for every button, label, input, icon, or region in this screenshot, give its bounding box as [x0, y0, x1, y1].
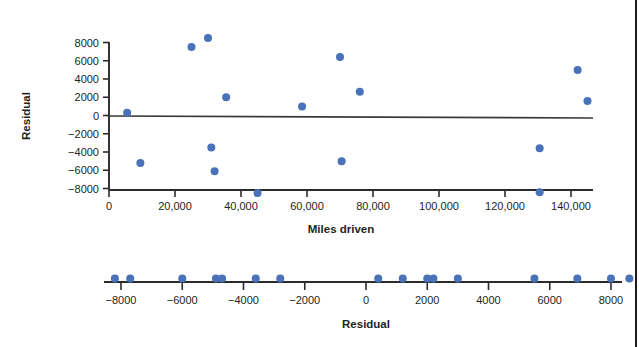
dotplot-point	[607, 275, 615, 283]
y-axis-tick-label: 2000	[75, 91, 99, 103]
dotplot-axis-tick-label: −4000	[228, 294, 259, 306]
y-axis-tick-label: 0	[93, 110, 99, 122]
x-axis-tick-label: 80,000	[356, 200, 390, 212]
chart-canvas: 80006000400020000−2000−4000−6000−8000020…	[0, 0, 639, 347]
dotplot-axis-tick-label: 8000	[599, 294, 623, 306]
dotplot-point	[573, 275, 581, 283]
x-axis-tick-label: 0	[106, 200, 112, 212]
dotplot-axis-tick-label: −6000	[167, 294, 198, 306]
dotplot-axis-tick-label: −8000	[106, 294, 137, 306]
page-border-right	[635, 0, 637, 347]
data-point	[338, 157, 346, 165]
y-axis-tick-label: −6000	[68, 164, 99, 176]
dotplot-point	[218, 275, 226, 283]
x-axis-tick-label: 40,000	[224, 200, 258, 212]
x-axis-tick-label: 100,000	[419, 200, 459, 212]
dotplot-point	[276, 275, 284, 283]
y-axis-tick-label: −2000	[68, 128, 99, 140]
zero-reference-line	[109, 116, 593, 118]
data-point	[336, 53, 344, 61]
x-axis-tick-label: 20,000	[158, 200, 192, 212]
data-point	[136, 159, 144, 167]
data-point	[536, 144, 544, 152]
dotplot-point	[399, 275, 407, 283]
dotplot-axis-tick-label: 0	[363, 294, 369, 306]
dotplot-point	[429, 275, 437, 283]
dotplot-point	[454, 275, 462, 283]
data-point	[123, 109, 131, 117]
data-point	[188, 43, 196, 51]
y-axis-title: Residual	[20, 92, 32, 140]
data-point	[298, 102, 306, 110]
y-axis-tick-label: −4000	[68, 146, 99, 158]
dotplot-axis-title: Residual	[342, 318, 390, 330]
data-point	[356, 88, 364, 96]
x-axis-tick-label: 120,000	[485, 200, 525, 212]
dotplot-axis-tick-label: 4000	[476, 294, 500, 306]
data-point	[204, 34, 212, 42]
residual-plots-figure: 80006000400020000−2000−4000−6000−8000020…	[0, 0, 639, 347]
dotplot-point	[625, 275, 633, 283]
dotplot-point	[374, 275, 382, 283]
dotplot-axis-tick-label: 2000	[415, 294, 439, 306]
data-point	[254, 189, 262, 197]
y-axis-tick-label: 6000	[75, 55, 99, 67]
dot-plot-residual: −8000−6000−4000−200002000400060008000Res…	[104, 275, 633, 331]
scatter-plot-residual-vs-miles: 80006000400020000−2000−4000−6000−8000020…	[20, 34, 593, 235]
x-axis-tick-label: 140,000	[551, 200, 591, 212]
data-point	[536, 188, 544, 196]
x-axis-tick-label: 60,000	[290, 200, 324, 212]
dotplot-point	[111, 275, 119, 283]
y-axis-tick-label: 4000	[75, 73, 99, 85]
dotplot-axis-tick-label: −2000	[289, 294, 320, 306]
x-axis-title: Miles driven	[308, 223, 374, 235]
dotplot-point	[252, 275, 260, 283]
y-axis-tick-label: 8000	[75, 37, 99, 49]
dotplot-point	[126, 275, 134, 283]
data-point	[211, 167, 219, 175]
data-point	[574, 66, 582, 74]
y-axis-tick-label: −8000	[68, 183, 99, 195]
data-point	[207, 143, 215, 151]
dotplot-point	[178, 275, 186, 283]
dotplot-point	[530, 275, 538, 283]
data-point	[222, 93, 230, 101]
data-point	[584, 97, 592, 105]
dotplot-axis-tick-label: 6000	[538, 294, 562, 306]
